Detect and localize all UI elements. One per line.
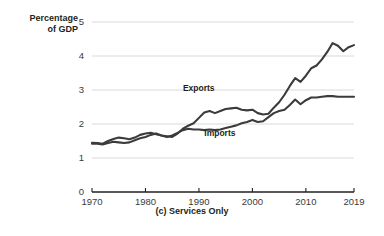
y-tick-label: 3 <box>70 84 84 95</box>
y-axis-title: Percentage of GDP <box>6 13 78 35</box>
series-label-exports: Exports <box>183 83 215 93</box>
y-tick-label: 1 <box>70 152 84 163</box>
series-label-imports: Imports <box>204 128 235 138</box>
y-tick-label: 2 <box>70 118 84 129</box>
y-tick-label: 4 <box>70 50 84 61</box>
figure-caption: (c) Services Only <box>0 206 384 216</box>
y-tick-label: 5 <box>70 16 84 27</box>
chart-figure: Percentage of GDP 012345 197019801990200… <box>0 0 384 236</box>
